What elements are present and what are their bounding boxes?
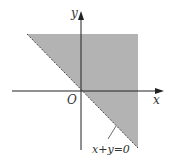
boundary-equation-label: x+y=0 bbox=[92, 143, 130, 156]
y-axis-arrow-icon bbox=[78, 11, 84, 20]
y-axis-label: y bbox=[70, 6, 78, 20]
coordinate-plane: y x O x+y=0 bbox=[0, 0, 175, 168]
origin-label: O bbox=[67, 93, 77, 107]
x-axis-label: x bbox=[153, 93, 160, 107]
diagram-figure: y x O x+y=0 bbox=[0, 0, 175, 168]
label-leader-line bbox=[108, 126, 116, 139]
